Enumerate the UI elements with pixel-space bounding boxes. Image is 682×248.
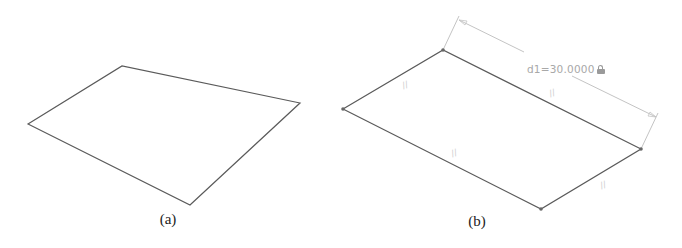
lock-icon — [597, 65, 605, 74]
vertex-point[interactable] — [341, 107, 345, 111]
extension-line-left — [443, 16, 459, 50]
dimension-line-seg2 — [572, 76, 656, 117]
dimension-value: d1=30.0000 — [527, 63, 595, 75]
vertex-point[interactable] — [639, 147, 643, 151]
sketch-canvas — [0, 0, 682, 248]
dimension-line-seg1 — [459, 20, 524, 52]
vertex-point[interactable] — [539, 207, 543, 211]
extension-line-right — [641, 113, 658, 149]
caption-b: (b) — [468, 213, 486, 230]
quadrilateral-a — [28, 66, 300, 205]
caption-a: (a) — [160, 211, 177, 228]
dimension-label[interactable]: d1=30.0000 — [527, 63, 605, 75]
vertex-point[interactable] — [441, 48, 445, 52]
